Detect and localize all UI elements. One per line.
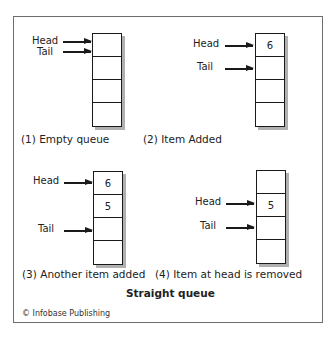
queue-cell bbox=[93, 103, 121, 126]
queue-cell: 5 bbox=[257, 194, 285, 217]
head-arrow-icon bbox=[226, 203, 254, 205]
queue-cell bbox=[256, 57, 284, 80]
tail-arrow-icon bbox=[63, 51, 91, 53]
queue-cell: 6 bbox=[256, 34, 284, 57]
queue-cell bbox=[257, 171, 285, 194]
tail-label: Tail bbox=[200, 220, 216, 232]
head-label: Head bbox=[193, 38, 219, 50]
queue-cell bbox=[256, 80, 284, 103]
head-arrow-icon bbox=[63, 41, 91, 43]
queue-cell bbox=[93, 57, 121, 80]
head-label: Head bbox=[195, 196, 221, 208]
diagram-title: Straight queue bbox=[126, 287, 215, 300]
tail-label: Tail bbox=[37, 46, 53, 58]
tail-arrow-icon bbox=[64, 230, 92, 232]
queue-stack: 6 5 bbox=[93, 171, 123, 265]
queue-cell: 6 bbox=[94, 172, 122, 195]
tail-arrow-icon bbox=[226, 227, 254, 229]
tail-arrow-icon bbox=[225, 68, 253, 70]
head-arrow-icon bbox=[64, 182, 92, 184]
panel-caption: (4) Item at head is removed bbox=[155, 268, 302, 281]
queue-cell bbox=[93, 34, 121, 57]
head-arrow-icon bbox=[225, 45, 253, 47]
queue-cell bbox=[94, 218, 122, 241]
head-label: Head bbox=[33, 175, 59, 187]
tail-label: Tail bbox=[38, 223, 54, 235]
panel-caption: (2) Item Added bbox=[143, 133, 222, 146]
queue-cell bbox=[257, 217, 285, 240]
queue-cell: 5 bbox=[94, 195, 122, 218]
queue-stack: 5 bbox=[256, 170, 286, 264]
tail-label: Tail bbox=[197, 61, 213, 73]
copyright-credit: © Infobase Publishing bbox=[22, 309, 110, 319]
panel-caption: (1) Empty queue bbox=[21, 133, 109, 146]
panel-caption: (3) Another item added bbox=[22, 268, 145, 281]
queue-cell bbox=[256, 103, 284, 126]
queue-stack bbox=[92, 33, 122, 127]
queue-stack: 6 bbox=[255, 33, 285, 127]
queue-cell bbox=[93, 80, 121, 103]
queue-cell bbox=[257, 240, 285, 263]
queue-cell bbox=[94, 241, 122, 264]
